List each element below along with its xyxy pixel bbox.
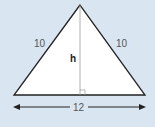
arrowhead-left-icon — [13, 104, 20, 110]
left-side-label: 10 — [34, 38, 46, 49]
triangle-diagram: 10 10 h 12 — [0, 0, 155, 127]
height-label: h — [70, 53, 76, 64]
arrowhead-right-icon — [139, 104, 146, 110]
triangle — [14, 5, 145, 95]
base-label: 12 — [73, 102, 85, 113]
right-side-label: 10 — [116, 38, 128, 49]
